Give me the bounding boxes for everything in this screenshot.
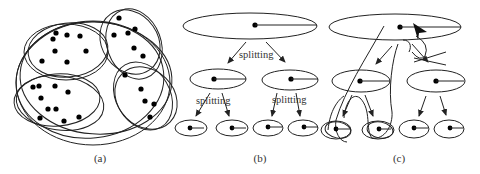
reassign-path: [403, 40, 410, 52]
reassign-path: [336, 26, 384, 142]
splitting-label-top: splitting: [239, 49, 274, 60]
root-node-ellipse: [183, 13, 317, 39]
cluster-ellipse: [25, 19, 110, 81]
splitting-label-left: splitting: [196, 95, 231, 106]
merge-arrowhead-icon: [413, 23, 427, 40]
caption-a: (a): [94, 152, 107, 165]
figure-canvas: (a) splitting splitting splitting: [0, 0, 480, 174]
split-arrow: [440, 96, 446, 115]
outer-cluster-ellipse: [16, 17, 175, 139]
caption-b: (b): [254, 152, 267, 165]
panel-b: splitting splitting splitting (b): [175, 13, 318, 165]
split-arrow: [376, 46, 392, 64]
splitting-label-right: splitting: [272, 94, 307, 105]
cross-out-line: [414, 52, 446, 62]
split-arrow: [419, 96, 426, 116]
panel-a: (a): [10, 0, 189, 165]
panel-c: (c): [321, 14, 465, 165]
split-arrow: [365, 95, 373, 116]
caption-c: (c): [393, 152, 406, 165]
cluster-ellipse: [24, 24, 108, 80]
cross-out-line: [414, 58, 446, 65]
